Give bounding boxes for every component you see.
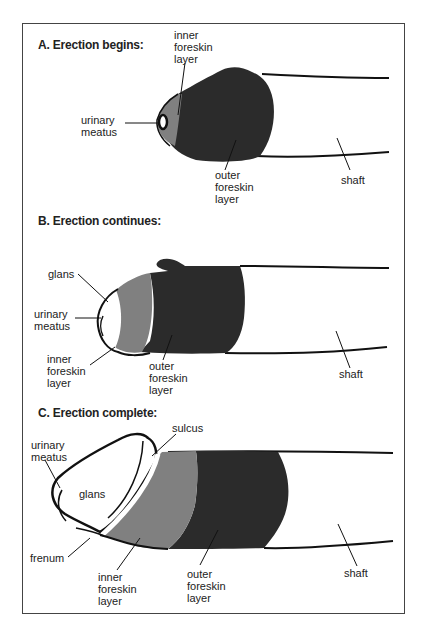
panel-c-shaft-bottom [264,541,393,548]
panel-c-label-inner-foreskin: inner foreskin layer [98,571,137,607]
panel-c-label-shaft: shaft [344,567,368,579]
panel-b-leader-glans [78,274,108,302]
panel-c-leader-meatus [45,460,60,488]
panel-b-label-glans: glans [48,268,74,280]
panel-c-label-frenum: frenum [30,552,64,564]
panel-a-title: A. Erection begins: [38,38,144,52]
panel-b-label-inner-foreskin: inner foreskin layer [47,353,86,389]
panel-a-label-outer-foreskin: outer foreskin layer [215,169,254,205]
panel-a-illustration [125,63,389,170]
panel-b-shaft-top [240,266,389,268]
panel-c-label-glans: glans [79,488,105,500]
panel-b-label-urinary-meatus: urinary meatus [34,308,70,332]
panel-c-leader-frenum [68,538,90,557]
panel-b-label-outer-foreskin: outer foreskin layer [149,360,188,396]
panel-b-outer-foreskin [140,259,245,354]
panel-a-outer-foreskin [168,67,274,161]
panel-c-title: C. Erection complete: [38,406,157,420]
panel-b-label-shaft: shaft [339,368,363,380]
panel-c-illustration [45,434,393,570]
panel-c-label-urinary-meatus: urinary meatus [31,439,67,463]
panel-b-leader-inner [90,347,115,365]
panel-a-shaft-bottom [256,152,389,157]
panel-b-shaft-bottom [225,347,387,353]
panel-b-illustration [75,259,389,368]
panel-c-label-sulcus: sulcus [172,422,203,434]
panel-b-title: B. Erection continues: [38,214,161,228]
panel-a-meatus [159,115,167,129]
panel-a-label-inner-foreskin: inner foreskin layer [174,29,213,65]
panel-a-label-shaft: shaft [341,174,365,186]
panel-c-label-outer-foreskin: outer foreskin layer [187,568,226,604]
panel-a-shaft-top [262,74,389,78]
panel-a-label-urinary-meatus: urinary meatus [81,114,117,138]
